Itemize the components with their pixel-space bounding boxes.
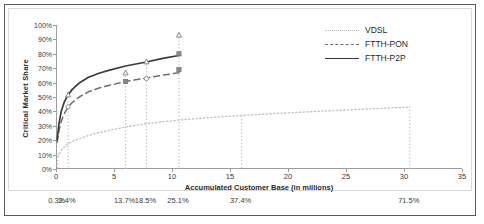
x-axis-tick-label: 0 (54, 173, 58, 181)
penetration-label-strip: 0.3%2.4%13.7%18.5%25.1%37.4%71.5% (8, 193, 472, 212)
penetration-label: 13.7% (114, 197, 135, 205)
y-axis-title-text: Critical Market Share (21, 59, 30, 138)
y-axis-tick-label: 70% (38, 65, 52, 72)
y-axis-tick-label: 90% (38, 36, 52, 43)
y-axis-tick-label: 50% (38, 94, 52, 101)
legend-label: FTTH-P2P (365, 53, 406, 63)
y-axis-tick-label: 0% (42, 166, 52, 173)
marker-triangle-ftth-p2p (144, 59, 149, 64)
penetration-label: 18.5% (135, 197, 156, 205)
series-line-ftth-p2p (57, 56, 179, 140)
legend-swatch-dotted-icon (325, 25, 359, 35)
x-axis-tick-label: 30 (400, 173, 408, 181)
legend-label: FTTH-PON (365, 39, 408, 49)
penetration-label: 25.1% (167, 197, 188, 205)
y-axis-tick-label: 30% (38, 122, 52, 129)
legend-swatch-dashed-icon (325, 39, 359, 49)
x-axis-title: Accumulated Customer Base (in millions) (56, 183, 462, 192)
y-axis-tick (53, 68, 56, 69)
x-axis-tick-label: 10 (168, 173, 176, 181)
y-axis-tick (53, 83, 56, 84)
y-axis-tick-label: 80% (38, 50, 52, 57)
y-axis-title: Critical Market Share (18, 37, 32, 159)
y-axis-tick (53, 25, 56, 26)
x-axis-tick-label: 15 (226, 173, 234, 181)
penetration-label: 37.4% (230, 197, 251, 205)
y-axis-tick (53, 155, 56, 156)
marker-square-ftth-pon (124, 79, 128, 83)
marker-circle-ftth-pon (144, 76, 148, 80)
x-axis-tick-label: 20 (284, 173, 292, 181)
marker-square-ftth-p2p (177, 52, 181, 56)
chart-legend: VDSL FTTH-PON FTTH-P2P (325, 23, 457, 65)
y-axis-tick-label: 100% (34, 22, 52, 29)
legend-item-vdsl: VDSL (325, 23, 457, 37)
marker-square-ftth-pon (177, 68, 181, 72)
marker-triangle-ftth-p2p (176, 32, 181, 37)
y-axis-tick (53, 126, 56, 127)
x-axis-tick-label: 35 (458, 173, 466, 181)
y-axis-tick (53, 54, 56, 55)
y-axis-tick-label: 10% (38, 151, 52, 158)
y-axis-tick (53, 140, 56, 141)
series-line-vdsl (58, 107, 410, 157)
y-axis-tick-label: 60% (38, 79, 52, 86)
chart-screenshot: Critical Market Share 0%10%20%30%40%50%6… (0, 0, 484, 224)
legend-swatch-solid-icon (325, 53, 359, 63)
chart-card: Critical Market Share 0%10%20%30%40%50%6… (8, 8, 472, 191)
marker-triangle-ftth-p2p (123, 70, 128, 75)
legend-item-ftth-p2p: FTTH-P2P (325, 51, 457, 65)
marker-circle-ftth-pon (66, 105, 70, 109)
x-axis-tick-label: 5 (112, 173, 116, 181)
penetration-label: 71.5% (398, 197, 419, 205)
y-axis-tick (53, 97, 56, 98)
y-axis-tick (53, 39, 56, 40)
penetration-label: 2.4% (59, 197, 76, 205)
legend-label: VDSL (365, 25, 387, 35)
y-axis-tick (53, 111, 56, 112)
series-line-ftth-pon (57, 73, 179, 143)
y-axis-tick-label: 40% (38, 108, 52, 115)
legend-item-ftth-pon: FTTH-PON (325, 37, 457, 51)
x-axis-tick-label: 25 (342, 173, 350, 181)
y-axis-tick-label: 20% (38, 137, 52, 144)
